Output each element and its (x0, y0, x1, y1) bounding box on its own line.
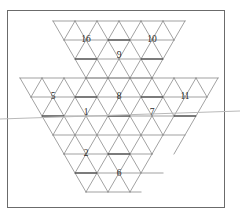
cell-label-9: 9 (117, 50, 122, 60)
lattice-diagram: 16 10 9 5 8 11 1 7 2 6 (0, 0, 240, 216)
cell-label-8: 8 (117, 91, 122, 101)
cell-label-11: 11 (180, 91, 189, 101)
figure-root: 16 10 9 5 8 11 1 7 2 6 (0, 0, 240, 216)
cell-label-10: 10 (147, 34, 157, 44)
cell-label-1: 1 (84, 107, 89, 117)
cell-label-7: 7 (150, 107, 155, 117)
cell-label-2: 2 (84, 148, 89, 158)
cell-label-16: 16 (81, 34, 91, 44)
cell-label-6: 6 (117, 168, 122, 178)
cell-label-5: 5 (51, 91, 56, 101)
